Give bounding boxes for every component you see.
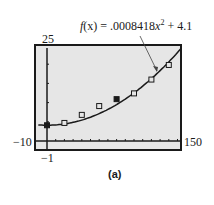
caption: (a)	[108, 168, 121, 180]
data-point	[149, 77, 154, 82]
eq-body: (x) = .0008418	[83, 19, 155, 33]
data-point	[79, 112, 84, 117]
ymax-label: 25	[42, 33, 54, 45]
equation-label: f(x) = .0008418x2 + 4.1	[80, 18, 192, 34]
data-point	[45, 123, 50, 128]
eq-rest: + 4.1	[164, 19, 192, 33]
plot-frame	[35, 45, 181, 150]
data-point	[132, 91, 137, 96]
data-point	[114, 97, 119, 102]
data-point	[62, 120, 67, 125]
xmin-label: −10	[13, 136, 32, 148]
data-point	[166, 62, 171, 67]
ymin-label: −1	[41, 152, 54, 164]
data-point	[97, 104, 102, 109]
xmax-label: 150	[184, 136, 202, 148]
